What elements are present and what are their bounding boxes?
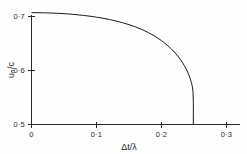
figure-panel: 0·7 0·6 0·5 0 0·1 0·2 0·3 uₙ/c Δt/λ	[0, 0, 247, 154]
x-tick-label-2: 0·2	[156, 130, 167, 139]
y-tick-label-0: 0·7	[14, 12, 25, 21]
x-tick-label-1: 0·1	[91, 130, 102, 139]
y-tick-label-2: 0·5	[14, 120, 25, 129]
y-axis-title: uₙ/c	[6, 62, 16, 79]
x-tick-label-3: 0·3	[221, 130, 232, 139]
plot-svg: 0·7 0·6 0·5 0 0·1 0·2 0·3 uₙ/c Δt/λ	[0, 0, 247, 154]
data-curve-line	[32, 13, 194, 125]
x-tick-label-0: 0	[29, 130, 33, 139]
x-axis-title: Δt/λ	[121, 142, 137, 152]
